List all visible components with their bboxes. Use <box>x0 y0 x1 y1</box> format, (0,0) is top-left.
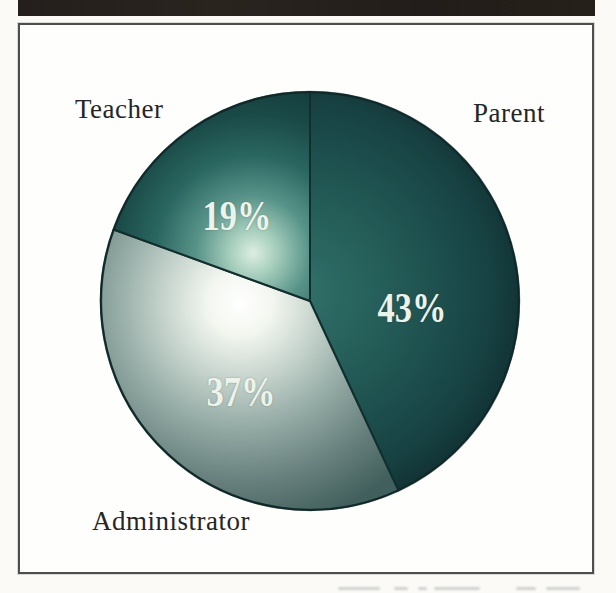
slice-label-administrator: Administrator <box>92 508 250 535</box>
slice-label-parent: Parent <box>473 100 545 127</box>
cut-off-caption-remnant <box>330 585 614 593</box>
scanned-figure-page: Teacher Parent Administrator 19% 43% 37% <box>0 0 616 593</box>
slice-label-teacher: Teacher <box>75 96 164 123</box>
slice-value-teacher: 19% <box>203 195 272 237</box>
slice-value-parent: 43% <box>378 287 447 329</box>
slice-value-administrator: 37% <box>207 371 276 413</box>
pie-chart <box>0 0 616 593</box>
